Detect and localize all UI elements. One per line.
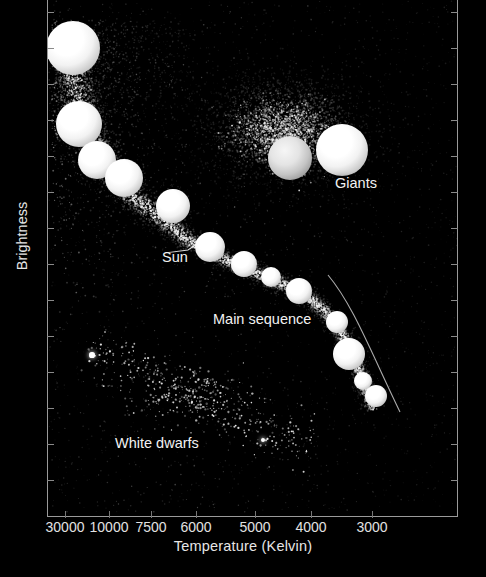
y-tick-mark (47, 120, 54, 121)
x-tick-label: 10000 (90, 519, 129, 535)
x-tick-label: 3000 (356, 519, 387, 535)
main-sequence-trace (328, 275, 400, 412)
plot-area: Giants Sun Main sequence White dwarfs (47, 0, 458, 517)
y-tick-mark-right (451, 372, 458, 373)
y-tick-mark (47, 84, 54, 85)
x-tick-label: 5000 (239, 519, 270, 535)
hr-diagram-figure: Brightness Giants Sun Main sequence Whit… (0, 0, 486, 577)
y-tick-mark (47, 264, 54, 265)
x-axis-title: Temperature (Kelvin) (0, 538, 486, 554)
y-tick-mark (47, 336, 54, 337)
y-tick-mark (47, 156, 54, 157)
y-tick-mark-right (451, 192, 458, 193)
y-tick-mark (47, 192, 54, 193)
y-tick-mark-right (451, 156, 458, 157)
y-tick-mark-right (451, 48, 458, 49)
y-tick-mark-right (451, 480, 458, 481)
y-axis-title: Brightness (14, 171, 30, 301)
annotation-lines (48, 0, 458, 517)
y-tick-mark-right (451, 84, 458, 85)
y-tick-mark-right (451, 12, 458, 13)
y-tick-mark (47, 408, 54, 409)
white-dwarf-star (89, 352, 94, 357)
y-tick-mark-right (451, 336, 458, 337)
x-tick-mark (311, 511, 312, 518)
y-tick-mark-right (451, 264, 458, 265)
y-tick-mark-right (451, 120, 458, 121)
y-tick-mark-right (451, 300, 458, 301)
x-tick-label: 6000 (180, 519, 211, 535)
y-tick-mark (47, 48, 54, 49)
annotation-main-sequence: Main sequence (213, 311, 311, 327)
x-tick-mark (255, 511, 256, 518)
x-tick-label: 30000 (46, 519, 85, 535)
x-tick-mark (151, 511, 152, 518)
y-tick-mark-right (451, 444, 458, 445)
x-tick-mark (196, 511, 197, 518)
y-tick-mark (47, 12, 54, 13)
y-tick-mark (47, 372, 54, 373)
x-tick-mark (372, 511, 373, 518)
y-tick-mark-right (451, 408, 458, 409)
x-tick-mark (109, 511, 110, 518)
y-tick-mark (47, 228, 54, 229)
x-tick-mark (65, 511, 66, 518)
y-tick-mark-right (451, 228, 458, 229)
x-tick-label: 7500 (135, 519, 166, 535)
annotation-white-dwarfs: White dwarfs (115, 435, 199, 451)
y-tick-mark (47, 480, 54, 481)
y-tick-mark (47, 300, 54, 301)
y-tick-mark (47, 444, 54, 445)
x-tick-label: 4000 (295, 519, 326, 535)
annotation-sun: Sun (162, 249, 188, 265)
annotation-giants: Giants (335, 175, 377, 191)
